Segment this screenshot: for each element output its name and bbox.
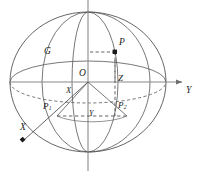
point-p-marker: [113, 50, 117, 54]
label-point-p: P: [119, 38, 125, 48]
label-origin: O: [79, 69, 86, 79]
radius-o-p1: [57, 82, 88, 116]
diagram-canvas: [0, 0, 200, 171]
label-point-p1-subscript: 1: [49, 105, 52, 111]
label-angle-z: Z: [118, 74, 123, 83]
label-point-p2-subscript: 2: [124, 104, 127, 110]
label-axis-y: Y: [186, 86, 191, 96]
x-axis-line: [24, 82, 88, 140]
sphere-diagram: P P1 P2 G O Y X Z X Y: [0, 0, 200, 171]
label-point-g: G: [44, 47, 51, 57]
radius-o-p2: [88, 82, 127, 116]
label-point-p1: P1: [43, 102, 51, 112]
label-angle-x: X: [66, 86, 71, 95]
label-angle-y: Y: [89, 110, 93, 118]
label-axis-x: X: [20, 123, 26, 133]
x-axis-arrow-tip: [20, 137, 26, 143]
label-point-p2: P2: [118, 101, 126, 111]
